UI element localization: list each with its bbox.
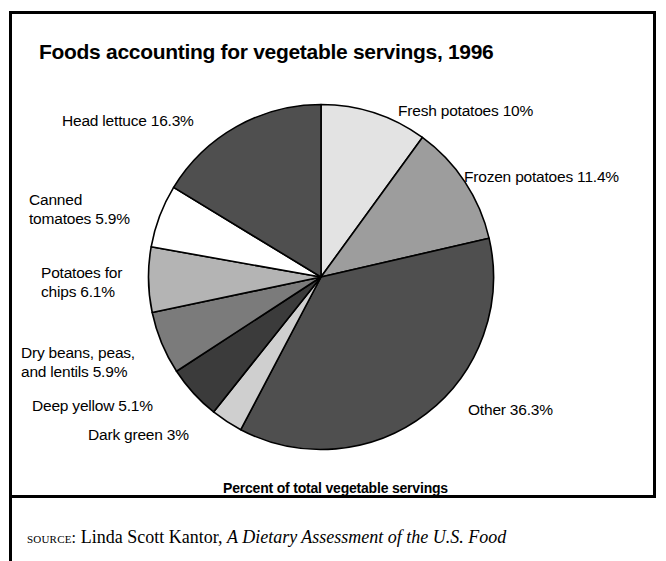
source-author: Linda Scott Kantor, (76, 527, 227, 547)
source-note: source: Linda Scott Kantor, A Dietary As… (27, 527, 506, 548)
slice-label-canned-tomatoes: Canned tomatoes 5.9% (29, 190, 130, 228)
slice-label-potatoes-for-chips: Potatoes for chips 6.1% (41, 263, 122, 301)
slice-label-deep-yellow: Deep yellow 5.1% (32, 396, 153, 415)
slice-label-frozen-potatoes: Frozen potatoes 11.4% (464, 167, 619, 186)
slice-label-fresh-potatoes: Fresh potatoes 10% (398, 101, 533, 120)
source-kicker: source: (27, 529, 76, 546)
slice-label-head-lettuce: Head lettuce 16.3% (62, 111, 194, 130)
slice-label-other: Other 36.3% (468, 400, 553, 419)
source-work-title: A Dietary Assessment of the U.S. Food (227, 527, 506, 547)
figure-panel: Foods accounting for vegetable servings,… (0, 0, 666, 561)
slice-label-dry-beans-peas-lentils: Dry beans, peas, and lentils 5.9% (21, 343, 135, 381)
axis-caption: Percent of total vegetable servings (12, 480, 659, 496)
slice-label-dark-green: Dark green 3% (88, 425, 189, 444)
page-title: Foods accounting for vegetable servings,… (39, 40, 493, 64)
